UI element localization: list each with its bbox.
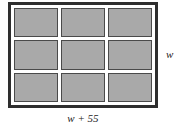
grid-cell: [14, 8, 58, 37]
panel-grid: [14, 8, 152, 102]
width-dimension-label: w + 55: [0, 113, 166, 124]
grid-cell: [14, 40, 58, 69]
grid-cell: [14, 73, 58, 102]
grid-cell: [108, 40, 152, 69]
grid-cell: [61, 73, 105, 102]
grid-cell: [61, 8, 105, 37]
height-dimension-label: w: [166, 49, 173, 60]
grid-cell: [108, 8, 152, 37]
grid-cell: [61, 40, 105, 69]
outer-rectangle-frame: [8, 2, 158, 108]
rectangle-grid-diagram: w w + 55: [0, 0, 190, 137]
grid-cell: [108, 73, 152, 102]
